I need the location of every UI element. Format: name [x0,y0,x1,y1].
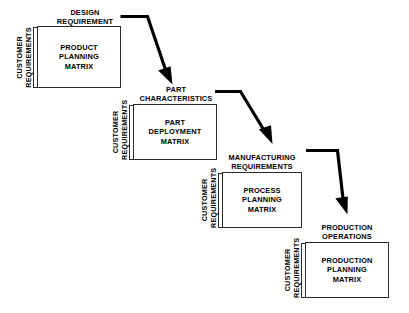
connector-1-line [121,17,168,75]
phase-header-production-planning: PRODUCTION OPERATIONS [306,223,388,241]
matrix-box-production-planning: PRODUCTION PLANNING MATRIX [305,242,389,298]
matrix-box-process-planning: PROCESS PLANNING MATRIX [222,172,302,228]
side-label-production-planning: CUSTOMER REQUIREMENTS [284,242,301,298]
side-label-part-deployment: CUSTOMER REQUIREMENTS [112,104,129,160]
qfd-cascade-diagram: DESIGN REQUIREMENT CUSTOMER REQUIREMENTS… [0,0,409,313]
side-label-line-2: REQUIREMENTS [210,172,219,228]
matrix-label-line-1: PRODUCTION [321,256,372,266]
connector-3-line [306,151,344,204]
connector-2-arrow [215,92,273,145]
matrix-label-line-3: MATRIX [242,205,282,215]
matrix-label-line-2: DEPLOYMENT [149,127,202,137]
connector-2-line [215,92,266,134]
matrix-label-line-2: PLANNING [59,52,99,62]
phase-header-line-2: CHARACTERISTICS [135,94,217,103]
connector-1-arrow [121,17,173,85]
matrix-label-line-3: MATRIX [149,137,202,147]
connector-1-arrowhead [158,66,172,84]
matrix-box-part-deployment: PART DEPLOYMENT MATRIX [133,104,217,160]
matrix-label-line-2: PLANNING [242,195,282,205]
side-label-product-planning: CUSTOMER REQUIREMENTS [16,27,33,88]
phase-header-line-2: REQUIREMENTS [222,162,302,171]
matrix-label-line-1: PART [149,118,202,128]
side-label-line-2: REQUIREMENTS [121,104,130,160]
matrix-label-line-2: PLANNING [321,265,372,275]
phase-header-part-deployment: PART CHARACTERISTICS [135,85,217,103]
connector-3-arrow [306,151,348,215]
matrix-label-process-planning: PROCESS PLANNING MATRIX [242,186,282,215]
phase-header-line-1: MANUFACTURING [222,153,302,162]
matrix-label-product-planning: PRODUCT PLANNING MATRIX [59,43,99,72]
matrix-label-line-1: PRODUCT [59,43,99,53]
matrix-box-product-planning: PRODUCT PLANNING MATRIX [37,26,121,88]
matrix-label-line-1: PROCESS [242,186,282,196]
phase-header-product-planning: DESIGN REQUIREMENT [46,8,124,26]
side-label-process-planning: CUSTOMER REQUIREMENTS [201,172,218,228]
matrix-label-part-deployment: PART DEPLOYMENT MATRIX [149,118,202,147]
connector-3-arrowhead [335,196,348,214]
phase-header-line-1: PART [135,85,217,94]
connector-2-arrowhead [259,125,273,144]
phase-header-line-2: OPERATIONS [306,232,388,241]
phase-header-process-planning: MANUFACTURING REQUIREMENTS [222,153,302,171]
side-label-line-2: REQUIREMENTS [293,242,302,298]
matrix-label-line-3: MATRIX [59,62,99,72]
matrix-label-production-planning: PRODUCTION PLANNING MATRIX [321,256,372,285]
matrix-label-line-3: MATRIX [321,275,372,285]
phase-header-line-1: DESIGN [46,8,124,17]
side-label-line-2: REQUIREMENTS [25,27,34,88]
phase-header-line-1: PRODUCTION [306,223,388,232]
